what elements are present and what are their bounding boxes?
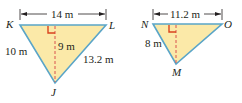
vertex-k: K [5, 18, 14, 30]
arrowhead-left-icon [21, 12, 27, 16]
vertex-o: O [224, 18, 232, 30]
arrowhead-right-icon [215, 12, 221, 16]
left-side-label: 8 m [145, 37, 162, 49]
height-label: 9 m [58, 40, 75, 52]
right-side-label: 13.2 m [83, 53, 114, 65]
triangles-diagram: 14 m 9 m 10 m 13.2 m K L J 11.2 m 8 m N … [0, 0, 242, 103]
vertex-m: M [171, 66, 182, 78]
vertex-n: N [140, 18, 149, 30]
triangle-nom: 11.2 m 8 m N O M [140, 8, 232, 78]
vertex-l: L [108, 19, 115, 31]
arrowhead-left-icon [154, 12, 160, 16]
vertex-j: J [51, 86, 57, 98]
base-label: 14 m [51, 8, 74, 20]
triangle-klj: 14 m 9 m 10 m 13.2 m K L J [5, 8, 115, 98]
triangle-nom-shape [153, 24, 222, 64]
base-label: 11.2 m [170, 8, 201, 20]
left-side-label: 10 m [5, 45, 28, 57]
arrowhead-right-icon [99, 12, 105, 16]
